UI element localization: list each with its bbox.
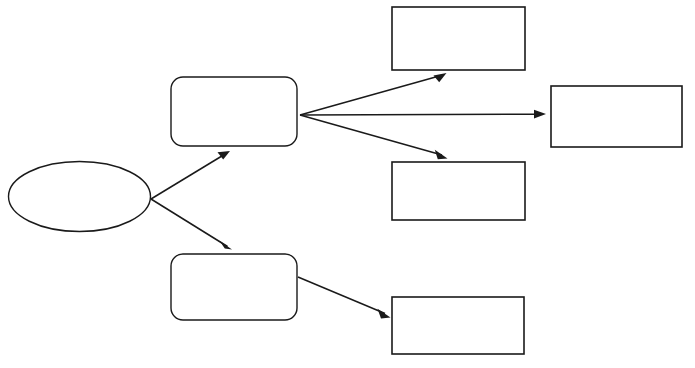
output-middle-shape	[392, 162, 525, 220]
edge-process-upper-to-output-right-arrowhead	[534, 110, 546, 119]
edge-process-upper-to-output-top[interactable]	[300, 73, 447, 115]
output-bottom-shape	[392, 297, 524, 354]
edge-process-upper-to-output-top-arrowhead	[434, 73, 447, 82]
edge-start-to-process-lower-line	[151, 199, 228, 247]
node-process-lower[interactable]	[171, 254, 297, 320]
node-layer	[9, 7, 683, 354]
edge-process-upper-to-output-middle-arrowhead	[435, 150, 448, 159]
edge-process-upper-to-output-right-line	[300, 114, 536, 115]
edge-start-to-process-upper-line	[151, 154, 226, 200]
node-output-middle[interactable]	[392, 162, 525, 220]
node-output-right[interactable]	[551, 86, 682, 147]
edge-start-to-process-upper[interactable]	[151, 151, 230, 199]
diagram-canvas	[0, 0, 695, 368]
edge-process-upper-to-output-right[interactable]	[300, 110, 546, 119]
edge-process-lower-to-output-bottom-arrowhead	[378, 309, 391, 319]
edge-process-lower-to-output-bottom-line	[298, 277, 385, 314]
node-output-top[interactable]	[392, 7, 525, 70]
node-output-bottom[interactable]	[392, 297, 524, 354]
edge-process-upper-to-output-middle[interactable]	[300, 115, 448, 159]
output-top-shape	[392, 7, 525, 70]
node-process-upper[interactable]	[171, 77, 297, 146]
process-lower-shape	[171, 254, 297, 320]
start-ellipse-shape	[9, 162, 151, 232]
node-start-ellipse[interactable]	[9, 162, 151, 232]
process-upper-shape	[171, 77, 297, 146]
edge-process-upper-to-output-middle-line	[300, 115, 442, 155]
edge-process-lower-to-output-bottom[interactable]	[298, 277, 391, 318]
edge-process-upper-to-output-top-line	[300, 76, 441, 116]
edge-start-to-process-lower[interactable]	[151, 199, 232, 250]
flowchart-svg	[0, 0, 695, 368]
output-right-shape	[551, 86, 682, 147]
